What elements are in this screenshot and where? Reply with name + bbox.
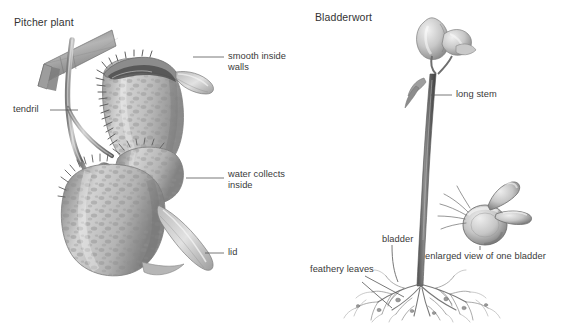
label-smooth-inside-walls: smooth inside walls xyxy=(228,51,286,72)
carnivorous-plants-diagram: Pitcher plant Bladderwort smooth inside … xyxy=(0,0,564,323)
leader-feathery-leaves-a xyxy=(365,276,404,297)
label-water-collects-inside: water collects inside xyxy=(228,169,285,190)
flower-cluster xyxy=(417,18,476,74)
upper-lid-leaf xyxy=(176,71,213,94)
diagram-artwork xyxy=(0,0,564,323)
bladderwort-illustration xyxy=(344,18,532,322)
lid-leaf xyxy=(157,206,213,271)
pitcher-plant-illustration xyxy=(38,30,213,286)
label-lid: lid xyxy=(228,247,237,258)
bladderwort-title: Bladderwort xyxy=(315,11,372,23)
label-enlarged-view-of-one-bladder: enlarged view of one bladder xyxy=(425,251,546,262)
enlarged-bladder xyxy=(438,182,532,245)
label-tendril: tendril xyxy=(13,104,39,115)
stem-bract xyxy=(405,78,426,108)
base-leaf xyxy=(142,262,184,275)
label-bladder: bladder xyxy=(382,234,413,245)
pitcher-plant-title: Pitcher plant xyxy=(14,16,74,28)
label-long-stem: long stem xyxy=(456,89,497,100)
leader-bladder xyxy=(392,245,398,282)
label-feathery-leaves: feathery leaves xyxy=(310,264,374,275)
